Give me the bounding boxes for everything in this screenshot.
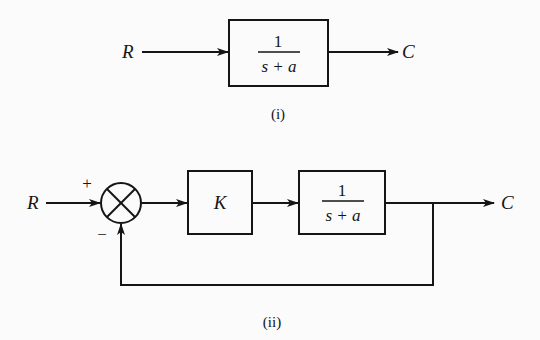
input-label-r: R xyxy=(121,41,134,62)
block-numerator: 1 xyxy=(274,32,283,51)
open-loop-diagram: R 1 s + a C (i) xyxy=(121,20,415,123)
input-label-r: R xyxy=(26,192,39,213)
caption-ii: (ii) xyxy=(263,314,281,331)
plus-sign: + xyxy=(82,174,92,193)
summing-junction xyxy=(101,183,141,223)
plant-denominator: s + a xyxy=(325,206,360,225)
gain-label: K xyxy=(213,192,228,213)
block-denominator: s + a xyxy=(261,57,296,76)
feedback-path xyxy=(121,203,433,285)
block-diagram-figure: R 1 s + a C (i) R + − K 1 s + a C xyxy=(0,0,540,340)
output-label-c: C xyxy=(501,192,514,213)
minus-sign: − xyxy=(97,225,107,244)
transfer-function-block xyxy=(229,20,328,86)
output-label-c: C xyxy=(402,41,415,62)
plant-numerator: 1 xyxy=(338,181,347,200)
caption-i: (i) xyxy=(271,106,285,123)
closed-loop-diagram: R + − K 1 s + a C (ii) xyxy=(26,171,514,331)
